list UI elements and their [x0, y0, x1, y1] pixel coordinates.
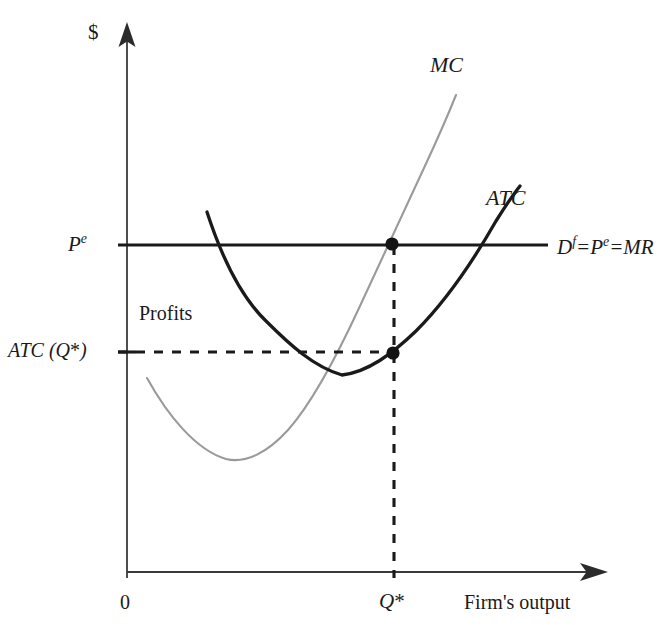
demand-line-label-p: P: [590, 235, 603, 259]
qstar-star: *: [394, 589, 405, 613]
demand-line-label-p-superscript: e: [603, 234, 609, 249]
economics-figure: $ MC ATC Pe Df=Pe=MR Profits ATC (Q*) 0 …: [0, 0, 666, 625]
demand-line-label-d-superscript: f: [572, 234, 576, 249]
atc-at-qstar-base: ATC (Q: [8, 339, 70, 361]
profits-region-label: Profits: [139, 303, 192, 323]
atc-at-qstar-axis-label: ATC (Q*): [8, 340, 87, 360]
demand-line-label: Df=Pe=MR: [557, 235, 654, 258]
qstar-base: Q: [379, 589, 394, 613]
y-axis-label: $: [88, 22, 99, 43]
demand-line-label-d: D: [557, 235, 572, 259]
profit-maximizing-point-marker: [385, 237, 398, 250]
atc-curve-label: ATC: [486, 187, 526, 209]
atc-at-qstar-close: ): [80, 339, 87, 361]
x-axis-label: Firm's output: [464, 592, 570, 612]
price-axis-label: Pe: [68, 232, 87, 255]
price-axis-label-superscript: e: [81, 231, 87, 246]
mc-curve-label: MC: [430, 54, 463, 76]
demand-line-label-mr: MR: [623, 235, 653, 259]
figure-canvas: [0, 0, 666, 625]
mc-curve: [147, 95, 456, 460]
origin-label: 0: [120, 592, 130, 612]
price-axis-label-base: P: [68, 232, 81, 256]
atc-at-qstar-point-marker: [386, 346, 399, 359]
atc-curve: [207, 186, 520, 375]
atc-at-qstar-star: *: [70, 339, 80, 361]
qstar-axis-label: Q*: [379, 591, 405, 612]
